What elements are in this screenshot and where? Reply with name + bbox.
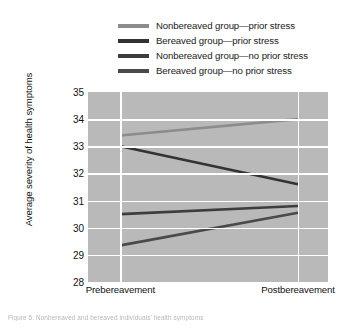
legend-item: Bereaved group—no prior stress xyxy=(0,63,356,78)
legend-item: Bereaved group—prior stress xyxy=(0,33,356,48)
gridline-horizontal xyxy=(88,119,328,120)
gridline-horizontal xyxy=(88,201,328,202)
legend-item: Nonbereaved group—no prior stress xyxy=(0,48,356,63)
gridline-vertical xyxy=(120,92,121,282)
legend-swatch-line xyxy=(118,69,149,73)
gridline-horizontal xyxy=(88,255,328,256)
y-axis-tick-label: 30 xyxy=(60,222,84,233)
gridline-horizontal xyxy=(88,228,328,229)
x-axis-tick-label: Postbereavement xyxy=(261,284,335,295)
x-axis-ticks: PrebereavementPostbereavement xyxy=(88,284,328,300)
gridline-horizontal xyxy=(88,146,328,147)
figure-caption: Figure 5. Nonbereaved and bereaved indiv… xyxy=(8,314,352,321)
legend-swatch-line xyxy=(118,24,149,28)
y-axis-tick-label: 31 xyxy=(60,195,84,206)
legend-swatch-line xyxy=(118,39,149,43)
chart-legend: Nonbereaved group—prior stress Bereaved … xyxy=(0,18,356,88)
gridline-horizontal xyxy=(88,173,328,174)
plot-area xyxy=(88,92,328,282)
legend-item-label: Nonbereaved group—no prior stress xyxy=(156,50,308,61)
x-axis-tick-label: Prebereavement xyxy=(86,284,156,295)
legend-item: Nonbereaved group—prior stress xyxy=(0,18,356,33)
legend-item-label: Nonbereaved group—prior stress xyxy=(156,20,295,31)
series-line xyxy=(120,119,298,135)
y-axis-tick-label: 33 xyxy=(60,141,84,152)
legend-swatch-line xyxy=(118,54,149,58)
plot-block: Average severity of health symptoms 2829… xyxy=(0,92,356,302)
legend-item-label: Bereaved group—no prior stress xyxy=(156,65,292,76)
y-axis-title: Average severity of health symptoms xyxy=(23,60,34,240)
y-axis-tick-label: 28 xyxy=(60,277,84,288)
y-axis-tick-label: 34 xyxy=(60,114,84,125)
series-line xyxy=(120,206,298,214)
legend-item-label: Bereaved group—prior stress xyxy=(156,35,279,46)
gridline-vertical xyxy=(298,92,299,282)
y-axis-ticks: 2829303132333435 xyxy=(60,92,84,282)
figure-panel: Nonbereaved group—prior stress Bereaved … xyxy=(0,0,356,328)
y-axis-tick-label: 29 xyxy=(60,249,84,260)
y-axis-tick-label: 35 xyxy=(60,87,84,98)
y-axis-tick-label: 32 xyxy=(60,168,84,179)
series-line xyxy=(120,146,298,184)
